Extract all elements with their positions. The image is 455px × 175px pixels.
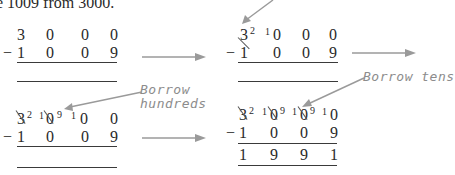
subtrahend-digit-hundreds: 0 [43,45,57,61]
new-digit-thousands: 2 [250,26,255,36]
minuend-digit-tens: 0 [299,27,313,43]
minuend-digit-ones: 0 [107,111,121,127]
subtrahend-digit-tens: 0 [78,45,92,61]
subtrahend-digit-hundreds: 0 [43,129,57,145]
annotation-borrow-tens: Borrow tens [363,70,455,84]
borrowed-one-tens: 1 [71,111,76,121]
result-rule [238,165,337,166]
subtrahend-digit-thousands: 1 [14,45,28,61]
new-digit-hundreds: 9 [57,110,62,120]
minuend-digit-ones: 0 [107,27,121,43]
annotation-line-1: Borrow tens [363,70,455,84]
minus-sign: − [226,45,235,61]
minuend-digit-hundreds: 0 [270,27,284,43]
minuend-digit-ones: 0 [326,27,340,43]
new-digit-hundreds: 9 [280,106,285,116]
subtrahend-digit-ones: 9 [326,45,340,61]
subtrahend-digit-hundreds: 0 [270,45,284,61]
minuend-digit-thousands-crossed: 3 [237,27,251,43]
subtrahend-digit-tens: 0 [78,129,92,145]
minuend-digit-tens: 0 [77,111,91,127]
subtrahend-digit-ones: 9 [107,129,121,145]
sum-rule [17,62,117,63]
intro-text: e 1009 from 3000. [0,0,114,12]
annotation-line-1: Borrow [140,83,207,97]
result-digit-thousands: 1 [236,147,250,163]
result-rule [17,167,117,168]
subtrahend-digit-thousands: 1 [236,125,250,141]
subtrahend-digit-tens: 0 [299,45,313,61]
new-digit-thousands: 2 [27,110,32,120]
sum-rule [17,146,117,147]
subtrahend-digit-ones: 9 [327,125,341,141]
arrow-right-icon [140,52,210,62]
result-digit-ones: 1 [327,147,341,163]
arrow-right-icon [350,48,420,58]
minuend-digit-thousands: 3 [14,27,28,43]
result-digit-hundreds: 9 [267,147,281,163]
result-rule [17,81,117,82]
subtrahend-digit-hundreds: 0 [267,125,281,141]
minus-sign: − [3,45,12,61]
subtrahend-digit-thousands: 1 [237,45,251,61]
minus-sign: − [226,125,235,141]
subtrahend-digit-tens: 0 [297,125,311,141]
pointer-arrow-icon [240,0,280,28]
pointer-arrow-icon [62,92,144,112]
subtrahend-digit-thousands: 1 [14,129,28,145]
sum-rule [238,143,337,144]
minus-sign: − [3,129,12,145]
new-digit-tens: 9 [310,106,315,116]
minuend-digit-tens: 0 [78,27,92,43]
subtrahend-digit-ones: 9 [107,45,121,61]
arrow-right-icon [140,133,210,143]
result-digit-tens: 9 [297,147,311,163]
new-digit-thousands: 2 [249,106,254,116]
annotation-line-2: hundreds [140,97,207,111]
minuend-digit-hundreds: 0 [43,27,57,43]
minuend-digit-ones: 0 [327,107,341,123]
annotation-borrow-hundreds: Borrow hundreds [140,83,207,111]
sum-rule [238,62,338,63]
